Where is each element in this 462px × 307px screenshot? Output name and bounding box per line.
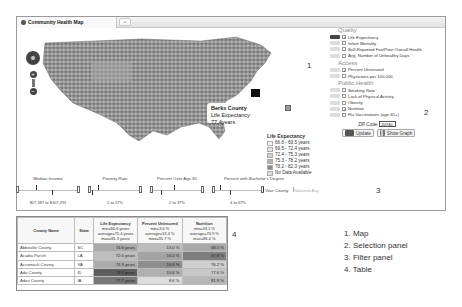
- map-icon: [345, 130, 354, 136]
- zip-label: ZIP Code: [358, 122, 377, 127]
- filter-title: Percent with Bachelor's Degree: [214, 176, 294, 181]
- col-nutrition[interactable]: Nutritionmin=43.1 % average=70.9 % max=8…: [182, 218, 226, 244]
- pan-arrows-icon[interactable]: [26, 51, 40, 65]
- county-table: County Name State Life Expectancymin=66.…: [16, 216, 228, 291]
- cell-life: 74.9 years: [93, 260, 137, 268]
- checkbox[interactable]: [342, 74, 346, 78]
- slider-max-handle[interactable]: [201, 186, 204, 193]
- browser-tab[interactable]: Community Health Map: [17, 17, 117, 28]
- annotation-list: 1. Map 2. Selection panel 3. Filter pane…: [344, 228, 408, 276]
- col-percent-uninsured[interactable]: Percent Uninsuredmin=3.0 % average=13.4 …: [138, 218, 182, 244]
- action-buttons: Update Show Graph: [342, 129, 442, 137]
- cell-life: 79.2 years: [93, 268, 137, 276]
- col-life-expectancy[interactable]: Life Expectancymin=66.6 years average=75…: [93, 218, 137, 244]
- cell-county[interactable]: Acadia Parish: [18, 252, 75, 260]
- checkbox[interactable]: [342, 88, 346, 92]
- pan-control[interactable]: [26, 51, 40, 65]
- your-county-marker: [161, 190, 162, 195]
- slider-min-handle[interactable]: [212, 186, 215, 193]
- cell-uninsured: 8.6 %: [138, 277, 182, 285]
- data-table: County Name State Life Expectancymin=66.…: [17, 217, 227, 285]
- county-tooltip: Berks County Life Expectancy: 77.4years: [207, 103, 281, 123]
- tooltip-close-button[interactable]: [285, 105, 291, 111]
- national-avg-marker: [52, 190, 53, 195]
- slider-track[interactable]: [152, 190, 202, 191]
- option-label: Physicians per 100,000: [348, 74, 393, 79]
- new-tab-button[interactable]: +: [119, 18, 131, 26]
- national-avg-marker: [174, 185, 175, 190]
- update-button[interactable]: Update: [342, 129, 374, 137]
- option-label: Obesity: [348, 100, 363, 105]
- slider-track[interactable]: [18, 190, 78, 191]
- map-canvas[interactable]: [21, 31, 297, 171]
- cell-state: ID: [75, 268, 93, 276]
- checkbox-checked[interactable]: ✓: [342, 107, 346, 111]
- section-public-health: Public Health: [338, 80, 442, 86]
- cell-county[interactable]: Ada County: [18, 268, 75, 276]
- slider-min-handle[interactable]: [88, 186, 91, 193]
- map-thumb-icon: [330, 41, 340, 45]
- option-label: Smoking Rate: [348, 88, 375, 93]
- zoom-slider[interactable]: [32, 79, 35, 87]
- table-row[interactable]: Adair County IA 77.7 years 8.6 % 81.9 %: [18, 277, 227, 285]
- slider-max-handle[interactable]: [139, 186, 142, 193]
- checkbox[interactable]: [342, 101, 346, 105]
- legend-swatch: [267, 165, 273, 170]
- slider-track[interactable]: [214, 190, 262, 191]
- checkbox[interactable]: [342, 47, 346, 51]
- option-label: Infant Mortality: [348, 41, 376, 46]
- filter-title: Poverty Rate: [90, 176, 140, 181]
- filter-title: Median Income: [18, 176, 78, 181]
- table-header-row: County Name State Life Expectancymin=66.…: [18, 218, 227, 244]
- zoom-out-button[interactable]: −: [30, 88, 37, 95]
- filter-bachelors: Percent with Bachelor's Degree 4 to 67%: [214, 176, 262, 206]
- checkbox[interactable]: [342, 94, 346, 98]
- checkbox[interactable]: [342, 41, 346, 45]
- zoom-in-button[interactable]: +: [30, 71, 37, 78]
- option-physicians[interactable]: Physicians per 100,000: [330, 73, 442, 79]
- table-row[interactable]: Acadia Parish LA 72.6 years 16.0 % 57.8 …: [18, 252, 227, 260]
- map-thumb-icon: [330, 113, 340, 117]
- option-label: Self-Reported Fair/Poor Overall Health: [348, 47, 422, 52]
- checkbox-checked[interactable]: ✓: [342, 68, 346, 72]
- checkbox[interactable]: [342, 113, 346, 117]
- annotation-item: 1. Map: [344, 228, 408, 240]
- your-county-marker: [92, 190, 93, 195]
- national-avg-marker: [230, 190, 231, 195]
- slider-track[interactable]: [90, 190, 140, 191]
- map-thumb-icon: [330, 54, 340, 58]
- us-county-map[interactable]: + −: [21, 31, 297, 171]
- national-avg-marker: [98, 185, 99, 190]
- slider-max-handle[interactable]: [77, 186, 80, 193]
- table-row[interactable]: Accomack County VA 74.9 years 16.5 % 76.…: [18, 260, 227, 268]
- cell-nutrition: 76.2 %: [182, 260, 226, 268]
- slider-min-handle[interactable]: [16, 186, 19, 193]
- cell-county[interactable]: Abbeville County: [18, 244, 75, 252]
- cell-county[interactable]: Accomack County: [18, 260, 75, 268]
- tab-title: Community Health Map: [28, 19, 84, 25]
- table-row[interactable]: Ada County ID 79.2 years 15.6 % 77.6 %: [18, 268, 227, 276]
- annotation-item: 3. Filter panel: [344, 252, 408, 264]
- zip-input[interactable]: [379, 121, 396, 127]
- filter-range: $17,487 to $107,291: [18, 200, 78, 205]
- cell-nutrition: 77.6 %: [182, 268, 226, 276]
- checkbox[interactable]: [342, 54, 346, 58]
- col-state[interactable]: State: [75, 218, 93, 244]
- map-thumb-icon: [330, 47, 340, 51]
- map-thumb-icon: [330, 68, 340, 72]
- option-unhealthy-days[interactable]: Avg. Number of Unhealthy Days: [330, 53, 442, 59]
- show-graph-label: Show Graph: [387, 131, 413, 136]
- map-legend: Life Expectancy 66.6 - 69.5 years 69.5 -…: [267, 133, 327, 176]
- table-row[interactable]: Abbeville County SC 74.6 years 13.0 % 68…: [18, 244, 227, 252]
- cell-county[interactable]: Adair County: [18, 277, 75, 285]
- cell-life: 74.6 years: [93, 244, 137, 252]
- show-graph-button[interactable]: Show Graph: [377, 129, 416, 137]
- slider-min-handle[interactable]: [150, 186, 153, 193]
- legend-swatch: [267, 153, 273, 158]
- cell-state: SC: [75, 244, 93, 252]
- cell-life: 77.7 years: [93, 277, 137, 285]
- your-county-marker: [36, 185, 37, 190]
- option-label: Flu Vaccinations (age 65+): [348, 112, 399, 117]
- checkbox-checked[interactable]: ✓: [342, 35, 346, 39]
- col-county-name[interactable]: County Name: [18, 218, 75, 244]
